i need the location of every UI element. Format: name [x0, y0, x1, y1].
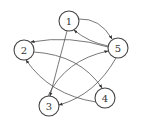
node-4-label: 4 — [102, 93, 108, 104]
node-4: 4 — [95, 88, 115, 108]
node-2-label: 2 — [21, 45, 27, 56]
node-5-label: 5 — [115, 43, 121, 54]
node-5: 5 — [108, 38, 128, 58]
node-3-label: 3 — [46, 101, 52, 112]
edge-4-to-2 — [26, 60, 96, 102]
edge-5-to-1 — [74, 30, 108, 46]
node-1: 1 — [59, 11, 79, 31]
node-2: 2 — [14, 40, 34, 60]
directed-graph: 1 2 3 4 5 — [0, 0, 141, 123]
node-1-label: 1 — [66, 16, 72, 27]
edge-1-to-3 — [50, 31, 67, 96]
node-3: 3 — [39, 96, 59, 116]
edge-1-to-5 — [79, 19, 112, 39]
